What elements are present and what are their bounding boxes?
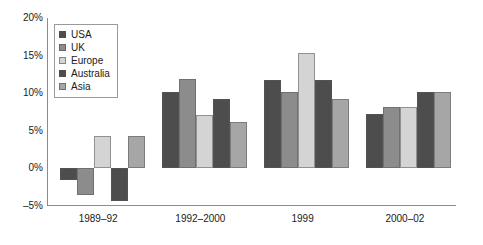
bar-group [162,18,247,206]
bar [383,107,400,169]
bar-chart: –5%0%5%10%15%20% USAUKEuropeAustraliaAsi… [0,0,483,245]
legend: USAUKEuropeAustraliaAsia [54,24,118,98]
x-axis-tick-label: 1992–2000 [149,213,251,224]
bar [281,92,298,169]
legend-item: USA [59,28,110,41]
legend-swatch-icon [59,31,66,38]
bar [366,114,383,168]
legend-label: Australia [71,68,110,79]
bar-group [366,18,451,206]
legend-item: Asia [59,80,110,93]
legend-label: UK [71,42,85,53]
y-axis-tick-label: 10% [3,88,43,98]
x-axis-tick-label: 2000–02 [354,213,456,224]
bar-group [264,18,349,206]
x-axis-tick-label: 1999 [252,213,354,224]
bar [264,80,281,169]
bar [400,107,417,169]
legend-item: Europe [59,54,110,67]
legend-label: Europe [71,55,103,66]
bar [230,122,247,169]
y-axis-tick-label: 20% [3,13,43,23]
legend-item: Australia [59,67,110,80]
y-axis-tick-label: 0% [3,163,43,173]
bar [298,53,315,168]
bar [162,92,179,168]
bar [111,168,128,201]
y-axis-line [47,18,48,206]
bar [179,79,196,168]
bar [60,168,77,179]
bar [213,99,230,168]
legend-swatch-icon [59,44,66,51]
legend-swatch-icon [59,57,66,64]
x-axis-tick-label: 1989–92 [47,213,149,224]
legend-swatch-icon [59,83,66,90]
bar [434,92,451,168]
legend-label: Asia [71,81,90,92]
bar [77,168,94,195]
bar [315,80,332,169]
y-axis-tick-label: 15% [3,51,43,61]
bar [94,136,111,168]
y-axis-tick-label: 5% [3,126,43,136]
legend-label: USA [71,29,92,40]
y-axis-tick-label: –5% [3,201,43,211]
y-axis: –5%0%5%10%15%20% [0,0,43,245]
bar [196,115,213,168]
bar [332,99,349,168]
bar [417,92,434,168]
bar [128,136,145,168]
legend-swatch-icon [59,70,66,77]
legend-item: UK [59,41,110,54]
